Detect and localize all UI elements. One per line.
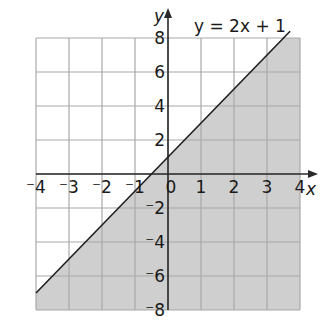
x-tick-label: 2 bbox=[229, 177, 240, 197]
y-tick-label: 8 bbox=[154, 28, 165, 48]
x-axis-label: x bbox=[305, 179, 317, 199]
x-tick-label: 4 bbox=[295, 177, 306, 197]
y-tick-label: ⁻4 bbox=[145, 232, 165, 252]
x-tick-label: 3 bbox=[262, 177, 273, 197]
x-tick-label: ⁻4 bbox=[26, 177, 46, 197]
y-tick-label: ⁻8 bbox=[145, 300, 165, 320]
y-tick-label: ⁻6 bbox=[145, 266, 165, 286]
x-tick-label: ⁻1 bbox=[125, 177, 145, 197]
graph: ⁻4⁻3⁻2⁻101234⁻8⁻6⁻4⁻22468 y = 2x + 1 x y bbox=[0, 0, 324, 324]
y-axis-label: y bbox=[153, 6, 165, 26]
x-tick-label: ⁻2 bbox=[92, 177, 112, 197]
equation-label: y = 2x + 1 bbox=[194, 16, 286, 36]
x-tick-label: 1 bbox=[196, 177, 207, 197]
x-tick-label: 0 bbox=[166, 177, 177, 197]
y-tick-label: 4 bbox=[154, 96, 165, 116]
y-tick-label: 2 bbox=[154, 130, 165, 150]
y-tick-label: ⁻2 bbox=[145, 198, 165, 218]
y-tick-label: 6 bbox=[154, 62, 165, 82]
x-tick-label: ⁻3 bbox=[59, 177, 79, 197]
